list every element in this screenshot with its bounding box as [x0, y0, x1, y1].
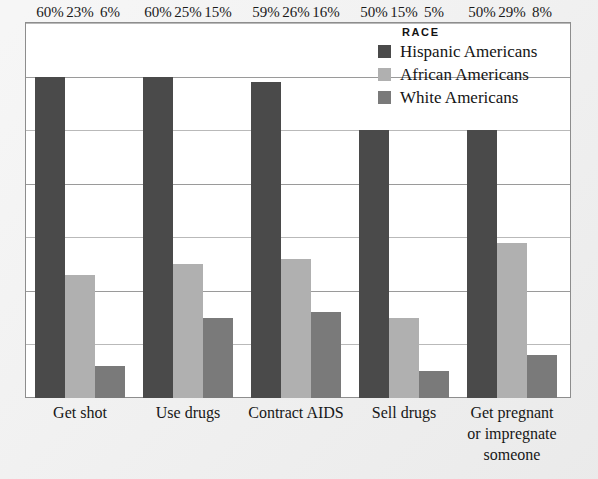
chart-legend: RACE Hispanic AmericansAfrican Americans… [378, 26, 564, 109]
legend-item: Hispanic Americans [378, 40, 564, 63]
bar-value-label: 29% [498, 5, 526, 22]
category-label: Contract AIDS [240, 402, 352, 423]
bar-value-label: 15% [390, 5, 418, 22]
category-label: Sell drugs [348, 402, 460, 423]
bar-value-label: 60% [144, 5, 172, 22]
bar-value-label: 50% [468, 5, 496, 22]
legend-swatch-white [378, 91, 391, 104]
bar-value-label: 50% [360, 5, 388, 22]
legend-items: Hispanic AmericansAfrican AmericansWhite… [378, 40, 564, 109]
gridline-70 [26, 23, 570, 24]
category-label-line: someone [484, 446, 541, 463]
bar-value-label: 15% [204, 5, 232, 22]
legend-title: RACE [402, 26, 564, 38]
legend-swatch-hispanic [378, 45, 391, 58]
bar-value-label: 23% [66, 5, 94, 22]
category-label-line: Get pregnant [470, 404, 553, 421]
category-label-line: Get shot [53, 404, 107, 421]
gridline-40 [26, 184, 570, 185]
legend-item: African Americans [378, 63, 564, 86]
bar-value-label: 26% [282, 5, 310, 22]
bar-value-label: 60% [36, 5, 64, 22]
category-label-line: Use drugs [156, 404, 220, 421]
legend-swatch-african [378, 68, 391, 81]
bar-value-label: 5% [424, 5, 444, 22]
bar-value-label: 8% [532, 5, 552, 22]
category-label-line: Contract AIDS [248, 404, 344, 421]
legend-item: White Americans [378, 86, 564, 109]
legend-item-label: African Americans [400, 66, 529, 83]
gridline-20 [26, 291, 570, 292]
gridline-50 [26, 130, 570, 131]
category-label-line: or impregnate [467, 425, 556, 442]
bar-value-label: 16% [312, 5, 340, 22]
category-label: Use drugs [132, 402, 244, 423]
bar-value-label: 59% [252, 5, 280, 22]
category-label: Get pregnantor impregnatesomeone [456, 402, 568, 465]
legend-item-label: Hispanic Americans [400, 43, 537, 60]
category-label: Get shot [24, 402, 136, 423]
legend-item-label: White Americans [400, 89, 519, 106]
category-label-line: Sell drugs [372, 404, 436, 421]
gridline-10 [26, 344, 570, 345]
gridline-30 [26, 237, 570, 238]
category-axis-labels: Get shotUse drugsContract AIDSSell drugs… [25, 402, 571, 476]
bar-value-label: 25% [174, 5, 202, 22]
page-root: 60%23%6%60%25%15%59%26%16%50%15%5%50%29%… [0, 0, 598, 479]
bar-value-label: 6% [100, 5, 120, 22]
